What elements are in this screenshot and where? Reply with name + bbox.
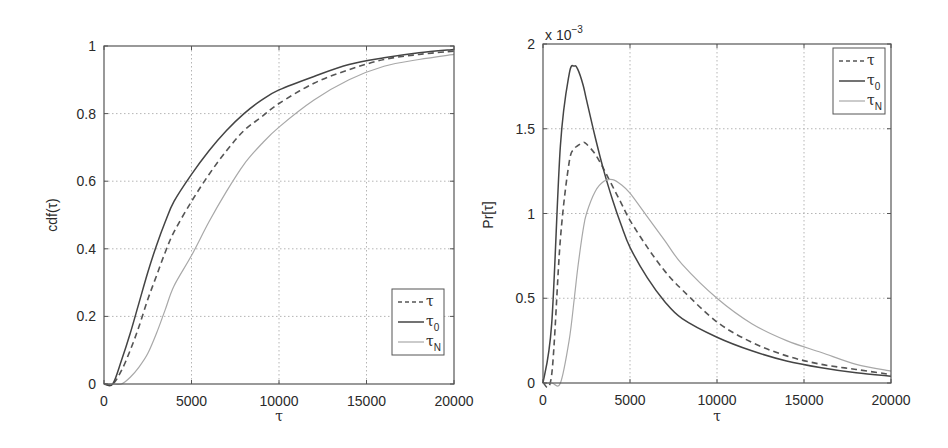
x-tick-label: 5000 xyxy=(614,392,645,408)
pdf-ylabel: Pr[τ] xyxy=(480,201,496,228)
cdf-xlabel: τ xyxy=(275,408,283,424)
x-tick-label: 0 xyxy=(100,393,108,409)
figure: 0500010000150002000000.20.40.60.81 cdf(τ… xyxy=(0,0,948,448)
x-tick-label: 5000 xyxy=(176,393,207,409)
y-tick-label: 0 xyxy=(527,375,535,391)
x-tick-label: 20000 xyxy=(435,393,474,409)
y-tick-label: 0.6 xyxy=(77,173,97,189)
legend-entry-label: τ xyxy=(426,293,434,309)
pdf-exponent-label: x 10−3 xyxy=(545,24,583,43)
legend-entry-label: τ xyxy=(867,52,875,68)
y-tick-label: 0.8 xyxy=(77,106,97,122)
y-tick-label: 0 xyxy=(88,376,96,392)
cdf-ylabel: cdf(τ) xyxy=(44,198,60,232)
y-tick-label: 1.5 xyxy=(516,121,536,137)
series-τN-line xyxy=(543,179,891,386)
cdf-plot: 0500010000150002000000.20.40.60.81 cdf(τ… xyxy=(44,38,474,424)
x-tick-label: 15000 xyxy=(785,392,824,408)
y-tick-label: 1 xyxy=(88,38,96,54)
x-tick-label: 10000 xyxy=(260,393,299,409)
pdf-plot: 0500010000150002000000.511.52 Pr[τ] τ x … xyxy=(480,24,911,424)
pdf-legend: ττ0τN xyxy=(833,48,885,114)
x-tick-label: 10000 xyxy=(698,392,737,408)
x-tick-label: 15000 xyxy=(347,393,386,409)
y-tick-label: 2 xyxy=(527,36,535,52)
y-tick-label: 0.5 xyxy=(516,290,536,306)
y-tick-label: 0.4 xyxy=(77,241,97,257)
x-tick-label: 20000 xyxy=(872,392,911,408)
pdf-xlabel: τ xyxy=(713,408,721,424)
x-tick-label: 0 xyxy=(539,392,547,408)
cdf-legend: ττ0τN xyxy=(392,289,444,355)
y-tick-label: 1 xyxy=(527,206,535,222)
y-tick-label: 0.2 xyxy=(77,308,97,324)
